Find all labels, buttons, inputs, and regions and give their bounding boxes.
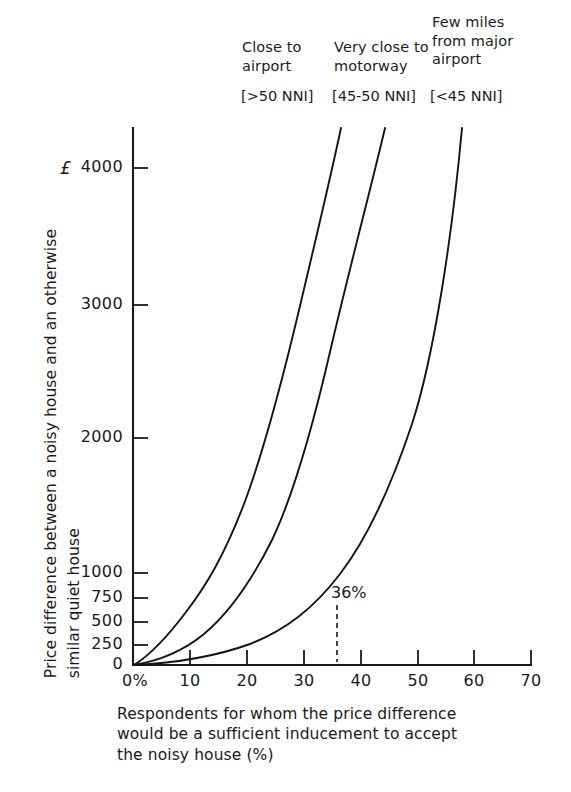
curve-few-miles-from-major-airport (134, 128, 462, 665)
x-tick-label-0: 0% (111, 671, 159, 690)
x-tick-label-60: 60 (452, 671, 496, 690)
x-axis-title: Respondents for whom the price differenc… (117, 704, 537, 765)
x-tick-label-30: 30 (282, 671, 326, 690)
annotation-label-36-percent: 36% (331, 583, 367, 602)
curve-close-to-airport (134, 128, 341, 665)
x-tick-label-20: 20 (225, 671, 269, 690)
x-tick-label-70: 70 (509, 671, 553, 690)
noise-price-difference-figure: Close to airport Very close to motorway … (0, 0, 571, 792)
y-axis-title: Price difference between a noisy house a… (40, 168, 87, 678)
x-tick-label-50: 50 (396, 671, 440, 690)
x-tick-label-10: 10 (168, 671, 212, 690)
y-axis-ticks (133, 168, 148, 645)
x-axis-ticks (133, 650, 531, 665)
x-tick-label-40: 40 (339, 671, 383, 690)
